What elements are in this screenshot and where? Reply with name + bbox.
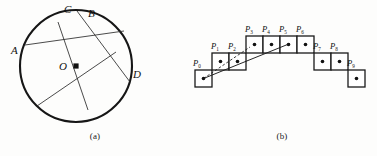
panel-b-staircase-diagram: P0 P1 P2 P3 P4 P5 P6 P7 P8 P9 (b) [187, 0, 377, 156]
cell-p7 [314, 53, 331, 70]
panel-a-caption: (a) [0, 131, 190, 141]
label-cell-p7: P7 [312, 41, 321, 52]
cell-p1-dot [219, 60, 223, 64]
label-cell-p6: P6 [295, 24, 304, 35]
cell-p6-dot [304, 43, 308, 47]
cell-p3-dot [253, 43, 257, 47]
label-point-b: B [88, 7, 95, 19]
label-point-d: D [132, 68, 141, 80]
cell-p4-dot [270, 43, 274, 47]
chord-a-b [25, 31, 124, 45]
label-cell-p4: P4 [261, 24, 270, 35]
staircase-diagram-svg: P0 P1 P2 P3 P4 P5 P6 P7 P8 P9 [187, 0, 377, 131]
label-cell-p3: P3 [244, 24, 253, 35]
cell-p8-dot [338, 60, 342, 64]
label-cell-p1: P1 [210, 41, 219, 52]
label-cell-p2: P2 [227, 41, 236, 52]
cell-p4 [263, 36, 280, 53]
label-cell-p9: P9 [346, 58, 355, 69]
cell-p9-dot [355, 77, 359, 81]
chord-c-d [77, 11, 130, 82]
cell-p8 [331, 53, 348, 70]
label-point-c: C [64, 3, 72, 15]
label-point-a: A [10, 44, 18, 56]
label-cell-p0: P0 [192, 58, 201, 69]
label-cell-p5: P5 [278, 24, 287, 35]
cell-p2-dot [236, 60, 240, 64]
center-point-marker [73, 63, 78, 68]
figure-root: A B C D O (a) [0, 0, 377, 156]
label-cell-p8: P8 [329, 41, 338, 52]
cell-p7-dot [321, 60, 325, 64]
cell-p6 [297, 36, 314, 53]
panel-b-caption: (b) [187, 131, 377, 141]
line-through-center-2 [37, 52, 116, 106]
label-center-o: O [59, 60, 67, 72]
circle-diagram-svg: A B C D O [0, 0, 190, 131]
cell-p9 [348, 70, 365, 87]
cell-p3 [246, 36, 263, 53]
panel-a-circle-diagram: A B C D O (a) [0, 0, 190, 156]
